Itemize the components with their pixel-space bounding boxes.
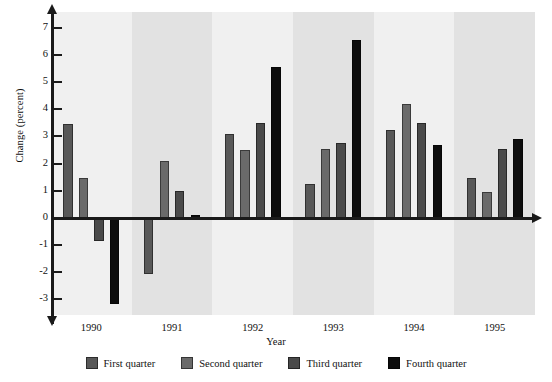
y-axis-tick-label: 2: [22, 157, 48, 168]
bar: [482, 192, 491, 218]
y-axis-tick: [54, 298, 62, 300]
bar: [271, 67, 280, 217]
legend-label: First quarter: [104, 358, 156, 369]
y-axis-tick: [54, 271, 62, 273]
y-axis-tick-label: 1: [22, 184, 48, 195]
y-axis-tick: [54, 217, 62, 219]
y-axis-tick-label: -3: [22, 292, 48, 303]
legend-item: Third quarter: [288, 357, 362, 369]
legend-swatch-icon: [288, 357, 300, 369]
y-axis-tick-label: 6: [22, 48, 48, 59]
y-axis-tick: [54, 27, 62, 29]
bar: [160, 161, 169, 218]
y-axis-tick: [54, 108, 62, 110]
legend-label: Second quarter: [199, 358, 262, 369]
y-axis-tick: [54, 244, 62, 246]
bar: [498, 149, 507, 218]
legend-label: Third quarter: [306, 358, 362, 369]
y-axis-tick-label: 5: [22, 75, 48, 86]
legend-swatch-icon: [388, 357, 400, 369]
bar: [225, 134, 234, 218]
x-axis-line: [51, 217, 532, 220]
y-axis-tick: [54, 190, 62, 192]
bar: [175, 191, 184, 218]
bar: [467, 178, 476, 217]
x-axis-tick-label: 1995: [465, 322, 525, 333]
y-axis-arrow-down-icon: [47, 316, 57, 326]
y-axis-tick-label: 4: [22, 102, 48, 113]
bar: [110, 218, 119, 305]
bar: [321, 149, 330, 218]
y-axis-tick-label: -2: [22, 265, 48, 276]
bar: [402, 104, 411, 218]
y-axis-arrow-up-icon: [47, 4, 57, 14]
bar-chart: Change (percent) Year First quarterSecon…: [0, 0, 552, 382]
bar: [240, 150, 249, 218]
legend-item: First quarter: [86, 357, 156, 369]
bar: [336, 143, 345, 217]
y-axis-tick-label: 7: [22, 21, 48, 32]
y-axis-tick: [54, 135, 62, 137]
bar: [63, 124, 72, 217]
x-axis-tick-label: 1990: [61, 322, 121, 333]
plot-area: [51, 12, 535, 315]
x-axis-tick-label: 1992: [223, 322, 283, 333]
y-axis-tick: [54, 163, 62, 165]
bar: [256, 123, 265, 218]
y-axis-tick: [54, 81, 62, 83]
legend-swatch-icon: [86, 357, 98, 369]
bar: [386, 130, 395, 218]
y-axis-line: [51, 12, 54, 324]
x-axis-tick-label: 1991: [142, 322, 202, 333]
year-band: [293, 12, 374, 315]
legend-swatch-icon: [181, 357, 193, 369]
bar: [305, 184, 314, 218]
x-axis-arrow-right-icon: [532, 213, 542, 223]
x-axis-title: Year: [0, 336, 552, 347]
y-axis-tick-label: 3: [22, 129, 48, 140]
y-axis-tick-label: 0: [22, 211, 48, 222]
bar: [352, 40, 361, 217]
y-axis-tick: [54, 54, 62, 56]
legend-label: Fourth quarter: [406, 358, 466, 369]
year-band: [454, 12, 535, 315]
bar: [417, 123, 426, 218]
bar: [79, 178, 88, 217]
bar: [433, 145, 442, 218]
legend-item: Fourth quarter: [388, 357, 466, 369]
bar: [513, 139, 522, 217]
chart-legend: First quarterSecond quarterThird quarter…: [0, 357, 552, 369]
bar: [94, 218, 103, 241]
bar: [144, 218, 153, 275]
legend-item: Second quarter: [181, 357, 262, 369]
x-axis-tick-label: 1993: [303, 322, 363, 333]
y-axis-tick-label: -1: [22, 238, 48, 249]
x-axis-tick-label: 1994: [384, 322, 444, 333]
